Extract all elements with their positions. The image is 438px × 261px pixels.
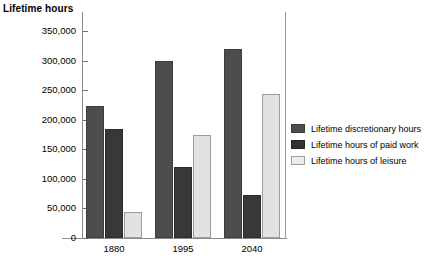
legend-swatch-icon (291, 156, 305, 165)
bar (124, 212, 142, 238)
legend-item: Lifetime discretionary hours (291, 121, 437, 136)
legend-item: Lifetime hours of leisure (291, 153, 437, 168)
legend-swatch-icon (291, 140, 305, 149)
bar (193, 135, 211, 239)
legend-swatch-icon (291, 124, 305, 133)
chart-legend: Lifetime discretionary hoursLifetime hou… (291, 121, 437, 169)
bar (262, 94, 280, 238)
x-axis-tick-label: 1995 (153, 243, 213, 254)
bar (86, 106, 104, 238)
bar (155, 61, 173, 238)
x-axis-tick-label: 1880 (84, 243, 144, 254)
legend-label: Lifetime hours of paid work (311, 140, 419, 150)
bar (243, 195, 261, 238)
bar (105, 129, 123, 238)
legend-label: Lifetime discretionary hours (311, 124, 421, 134)
bar (224, 49, 242, 238)
legend-item: Lifetime hours of paid work (291, 137, 437, 152)
legend-label: Lifetime hours of leisure (311, 156, 407, 166)
bar (174, 167, 192, 238)
x-axis-tick-label: 2040 (222, 243, 282, 254)
bar-chart: Lifetime hours 050,000100,000150,000200,… (0, 0, 438, 261)
